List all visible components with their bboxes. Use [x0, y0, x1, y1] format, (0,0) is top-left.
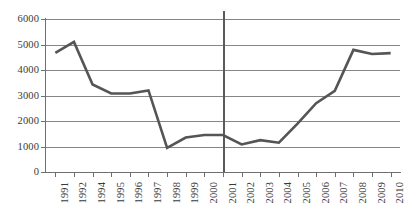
x-tick-mark	[93, 172, 94, 177]
x-tick-label: 1997	[153, 182, 164, 203]
x-tick-mark	[316, 172, 317, 177]
x-tick-mark	[111, 172, 112, 177]
y-tick-mark	[41, 121, 45, 122]
x-tick-label: 2005	[302, 182, 313, 203]
x-tick-label: 1991	[60, 182, 71, 203]
y-tick-label: 3000	[0, 91, 39, 102]
x-tick-mark	[130, 172, 131, 177]
x-tick-label: 2008	[358, 182, 369, 203]
line-chart: 0100020003000400050006000 19911992199419…	[0, 0, 414, 224]
x-tick-mark	[242, 172, 243, 177]
x-tick-label: 2006	[321, 182, 332, 203]
x-tick-label: 1998	[172, 182, 183, 203]
y-tick-mark	[41, 45, 45, 46]
y-tick-label: 2000	[0, 116, 39, 127]
x-tick-mark	[260, 172, 261, 177]
x-tick-mark	[298, 172, 299, 177]
x-tick-label: 2009	[377, 182, 388, 203]
x-tick-label: 2001	[228, 182, 239, 203]
x-tick-mark	[279, 172, 280, 177]
x-tick-label: 1995	[116, 182, 127, 203]
x-tick-mark	[372, 172, 373, 177]
x-tick-mark	[391, 172, 392, 177]
x-tick-label: 1994	[97, 182, 108, 203]
y-tick-mark	[41, 147, 45, 148]
y-tick-label: 5000	[0, 40, 39, 51]
y-tick-label: 4000	[0, 65, 39, 76]
x-tick-label: 1992	[78, 182, 89, 203]
y-tick-mark	[41, 96, 45, 97]
x-tick-label: 2004	[283, 182, 294, 203]
x-tick-label: 2002	[246, 182, 257, 203]
x-tick-mark	[167, 172, 168, 177]
x-tick-label: 2007	[339, 182, 350, 203]
x-tick-label: 2010	[395, 182, 406, 203]
y-tick-label: 0	[0, 167, 39, 178]
x-tick-mark	[74, 172, 75, 177]
x-tick-mark	[186, 172, 187, 177]
x-tick-mark	[204, 172, 205, 177]
series-line-1	[55, 42, 390, 148]
x-tick-label: 2003	[265, 182, 276, 203]
x-tick-mark	[223, 172, 224, 177]
y-tick-mark	[41, 19, 45, 20]
y-tick-mark	[41, 172, 45, 173]
y-tick-label: 1000	[0, 142, 39, 153]
x-tick-label: 1999	[190, 182, 201, 203]
x-tick-label: 2000	[209, 182, 220, 203]
x-tick-mark	[55, 172, 56, 177]
x-tick-label: 1996	[134, 182, 145, 203]
y-tick-mark	[41, 70, 45, 71]
x-tick-mark	[353, 172, 354, 177]
x-tick-mark	[335, 172, 336, 177]
y-tick-label: 6000	[0, 14, 39, 25]
x-tick-mark	[148, 172, 149, 177]
